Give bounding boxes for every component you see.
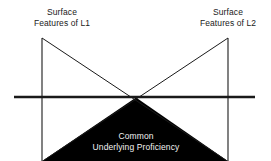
label-surface-features-l1: Surface Features of L1 [7, 7, 117, 28]
label-surface-features-l2-line1: Surface [173, 7, 271, 18]
dual-iceberg-diagram: Surface Features of L1 Surface Features … [0, 0, 271, 161]
label-surface-features-l1-line1: Surface [7, 7, 117, 18]
label-surface-features-l2: Surface Features of L2 [173, 7, 271, 28]
label-common-underlying-proficiency-line2: Underlying Proficiency [56, 142, 216, 153]
label-common-underlying-proficiency: Common Underlying Proficiency [56, 131, 216, 153]
label-surface-features-l2-line2: Features of L2 [173, 18, 271, 29]
label-surface-features-l1-line2: Features of L1 [7, 18, 117, 29]
label-common-underlying-proficiency-line1: Common [56, 131, 216, 142]
